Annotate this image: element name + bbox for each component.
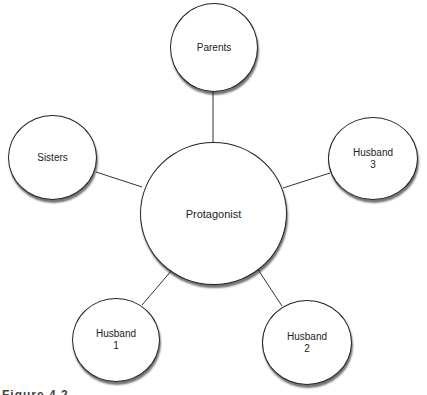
edge-husband1 (142, 270, 172, 305)
edge-sisters (96, 172, 142, 187)
node-label: Protagonist (186, 208, 242, 220)
edge-husband2 (255, 265, 282, 306)
node-husband-3: Husband 3 (328, 117, 418, 200)
node-label: Husband 1 (96, 328, 136, 352)
node-husband-2: Husband 2 (262, 300, 352, 385)
node-label: Husband 3 (353, 147, 393, 171)
node-label: Husband 2 (287, 331, 327, 355)
node-protagonist: Protagonist (140, 142, 287, 285)
edge-husband3 (283, 173, 330, 188)
node-label: Sisters (37, 152, 68, 164)
figure-caption: Figure 4.2 ... (2, 386, 86, 395)
node-sisters: Sisters (8, 115, 97, 200)
node-parents: Parents (170, 3, 258, 92)
node-label: Parents (197, 42, 231, 54)
node-husband-1: Husband 1 (72, 298, 160, 382)
